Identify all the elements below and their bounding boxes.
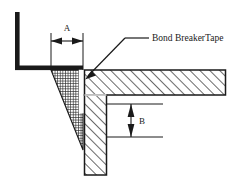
construction-detail-drawing: A B Bond BreakerTape — [0, 0, 237, 183]
concrete-column — [85, 95, 107, 175]
concrete-slab — [85, 70, 226, 95]
dimension-a-label: A — [64, 23, 71, 33]
dimension-b-label: B — [139, 116, 145, 126]
bond-breaker-tape-strip — [79, 70, 85, 113]
bond-breaker-tape-label: Bond BreakerTape — [152, 33, 223, 43]
